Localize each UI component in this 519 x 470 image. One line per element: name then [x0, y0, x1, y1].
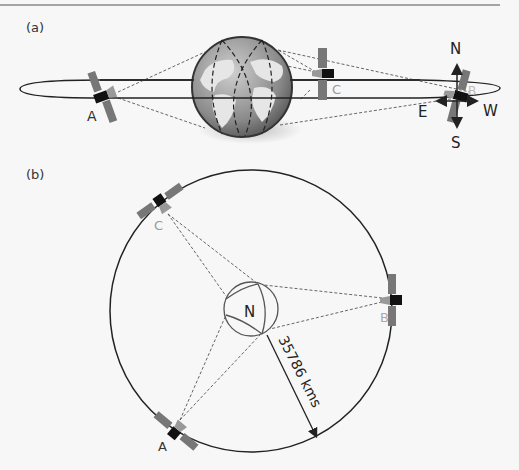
satellite-a-label: A [87, 108, 97, 124]
radius-label: 35786 kms [275, 333, 325, 410]
compass-north: N [450, 40, 461, 58]
satellite-a-label-b: A [158, 439, 167, 454]
compass-east: E [418, 103, 427, 121]
satellite-b-label-b: B [380, 310, 389, 325]
panel-b-label: (b) [26, 167, 44, 182]
panel-b: (b) N 35786 kms C [26, 167, 402, 454]
satellite-b-label: B [468, 84, 476, 98]
satellite-c-icon [312, 48, 334, 100]
panel-a-label: (a) [26, 20, 44, 35]
satellite-c-label-b: C [154, 218, 163, 233]
north-pole-label: N [244, 303, 255, 321]
compass-south: S [451, 134, 461, 152]
geostationary-orbit-figure: (a) [0, 0, 519, 470]
compass-west: W [483, 102, 498, 120]
panel-a: (a) [20, 20, 500, 152]
earth-globe [192, 37, 292, 137]
satellite-c-label: C [332, 82, 341, 97]
